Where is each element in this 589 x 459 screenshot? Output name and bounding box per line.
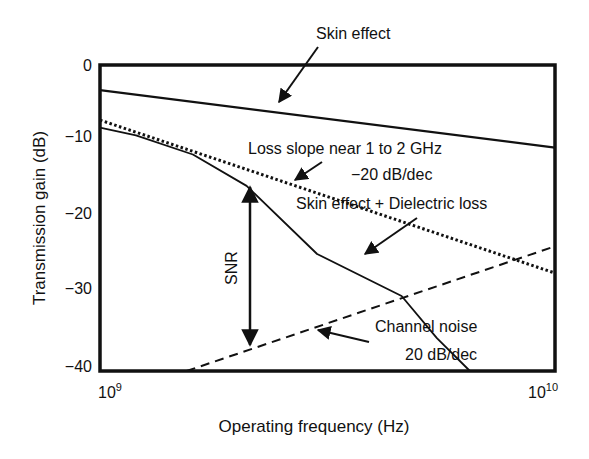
annotation-snr: SNR bbox=[223, 251, 240, 285]
y-tick-label: −40 bbox=[65, 358, 92, 375]
x-tick-label: 1010 bbox=[528, 381, 558, 401]
x-axis-label: Operating frequency (Hz) bbox=[219, 417, 410, 436]
arrow-skin-dielectric bbox=[365, 218, 417, 254]
annotation-loss-slope: Loss slope near 1 to 2 GHz bbox=[248, 140, 442, 157]
x-tick-base: 10 bbox=[98, 384, 116, 401]
x-axis: 109 1010 Operating frequency (Hz) bbox=[98, 381, 558, 436]
y-axis: 0 −10 −20 −30 −40 Transmission gain (dB) bbox=[30, 57, 92, 375]
plot-frame bbox=[100, 65, 555, 371]
y-tick-label: −30 bbox=[65, 280, 92, 297]
arrow-loss-slope bbox=[295, 162, 322, 180]
annotation-skin-effect: Skin effect bbox=[316, 25, 391, 42]
annotation-loss-slope-value: −20 dB/dec bbox=[351, 166, 432, 183]
series-layer bbox=[100, 90, 555, 371]
x-tick-exp: 9 bbox=[116, 381, 122, 393]
annotation-channel-noise-value: 20 dB/dec bbox=[405, 346, 477, 363]
annotations: Skin effect Loss slope near 1 to 2 GHz −… bbox=[223, 25, 487, 363]
y-axis-label: Transmission gain (dB) bbox=[30, 131, 49, 305]
y-tick-label: 0 bbox=[83, 57, 92, 74]
arrow-skin-effect bbox=[279, 47, 318, 102]
chart: 0 −10 −20 −30 −40 Transmission gain (dB)… bbox=[0, 0, 589, 459]
y-tick-label: −10 bbox=[65, 128, 92, 145]
y-tick-label: −20 bbox=[65, 205, 92, 222]
arrow-channel-noise bbox=[318, 330, 369, 342]
annotation-skin-dielectric: Skin effect + Dielectric loss bbox=[296, 195, 487, 212]
annotation-channel-noise: Channel noise bbox=[375, 318, 477, 335]
x-tick-exp: 10 bbox=[546, 381, 558, 393]
x-tick-label: 109 bbox=[98, 381, 122, 401]
series-skin-effect bbox=[100, 90, 555, 147]
x-tick-base: 10 bbox=[528, 384, 546, 401]
series-channel-noise-20-db-dec bbox=[187, 246, 555, 371]
